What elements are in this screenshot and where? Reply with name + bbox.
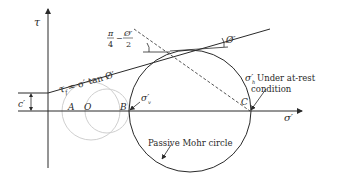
point-b-label: B [119, 102, 127, 112]
point-c-label: C [241, 97, 248, 107]
cohesion-label: c′ [18, 99, 25, 109]
passive-mohr-circle-diagram: τ σ′ τ f = σ′ tan Ø′ c′ π 4 − Ø′ 2 Ø′ A … [0, 0, 344, 180]
angle-arc-left [147, 43, 149, 52]
friction-angle-label: Ø′ [225, 35, 235, 45]
sigma-axis-label: σ′ [284, 112, 294, 123]
angle-label-4: 4 [108, 40, 113, 49]
cohesion-arrow-top [29, 93, 33, 97]
point-a-label: A [67, 102, 75, 112]
envelope-equation-label: τ f = σ′ tan Ø′ [58, 68, 117, 97]
angle-label-phi: Ø′ [123, 29, 133, 38]
cohesion-arrow-bottom [29, 107, 33, 111]
sigma-h-description-line2: condition [251, 84, 292, 94]
angle-label-minus: − [116, 34, 123, 43]
angle-label-pi4-minus-phi2: π 4 − Ø′ 2 [107, 29, 133, 49]
tau-axis-label: τ [34, 16, 41, 29]
sigma-v-sub: v [148, 99, 151, 105]
angle-label-pi: π [107, 29, 114, 38]
point-o-label: O [84, 102, 92, 112]
sigma-h-description-line1: Under at-rest [257, 73, 316, 83]
angle-label-2: 2 [126, 40, 131, 49]
passive-mohr-circle-label: Passive Mohr circle [148, 138, 233, 148]
sigma-v-pointer [130, 102, 140, 110]
